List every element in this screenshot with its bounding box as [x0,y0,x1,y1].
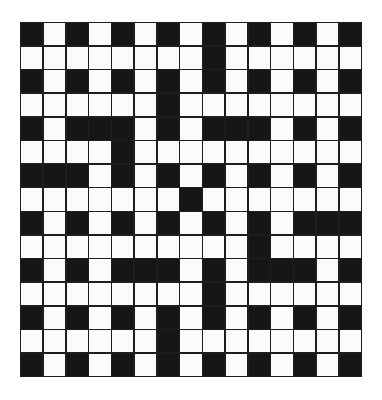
crossword-open-cell[interactable] [317,307,338,329]
crossword-open-cell[interactable] [21,236,42,258]
crossword-open-cell[interactable] [180,212,201,234]
crossword-open-cell[interactable] [180,118,201,140]
crossword-open-cell[interactable] [89,70,110,92]
crossword-open-cell[interactable] [135,94,156,116]
crossword-open-cell[interactable] [317,283,338,305]
crossword-open-cell[interactable] [203,141,224,163]
crossword-open-cell[interactable] [44,307,65,329]
crossword-open-cell[interactable] [180,23,201,45]
crossword-open-cell[interactable] [44,236,65,258]
crossword-open-cell[interactable] [294,236,315,258]
crossword-open-cell[interactable] [135,307,156,329]
crossword-open-cell[interactable] [249,283,270,305]
crossword-open-cell[interactable] [89,236,110,258]
crossword-open-cell[interactable] [271,236,292,258]
crossword-open-cell[interactable] [21,188,42,210]
crossword-open-cell[interactable] [317,354,338,376]
crossword-open-cell[interactable] [135,236,156,258]
crossword-open-cell[interactable] [44,354,65,376]
crossword-open-cell[interactable] [67,330,88,352]
crossword-open-cell[interactable] [180,94,201,116]
crossword-open-cell[interactable] [44,23,65,45]
crossword-open-cell[interactable] [158,283,179,305]
crossword-open-cell[interactable] [294,283,315,305]
crossword-open-cell[interactable] [89,188,110,210]
crossword-open-cell[interactable] [89,283,110,305]
crossword-open-cell[interactable] [226,236,247,258]
crossword-open-cell[interactable] [249,141,270,163]
crossword-open-cell[interactable] [271,188,292,210]
crossword-open-cell[interactable] [317,23,338,45]
crossword-open-cell[interactable] [135,354,156,376]
crossword-open-cell[interactable] [21,330,42,352]
crossword-open-cell[interactable] [158,188,179,210]
crossword-open-cell[interactable] [226,307,247,329]
crossword-open-cell[interactable] [135,165,156,187]
crossword-open-cell[interactable] [271,165,292,187]
crossword-open-cell[interactable] [340,236,361,258]
crossword-open-cell[interactable] [158,141,179,163]
crossword-open-cell[interactable] [271,330,292,352]
crossword-open-cell[interactable] [180,354,201,376]
crossword-open-cell[interactable] [271,47,292,69]
crossword-open-cell[interactable] [226,165,247,187]
crossword-open-cell[interactable] [112,188,133,210]
crossword-open-cell[interactable] [317,165,338,187]
crossword-open-cell[interactable] [67,236,88,258]
crossword-open-cell[interactable] [294,330,315,352]
crossword-open-cell[interactable] [294,94,315,116]
crossword-open-cell[interactable] [226,141,247,163]
crossword-open-cell[interactable] [89,165,110,187]
crossword-open-cell[interactable] [271,354,292,376]
crossword-open-cell[interactable] [340,94,361,116]
crossword-open-cell[interactable] [294,141,315,163]
crossword-open-cell[interactable] [249,188,270,210]
crossword-open-cell[interactable] [44,70,65,92]
crossword-open-cell[interactable] [271,23,292,45]
crossword-open-cell[interactable] [249,94,270,116]
crossword-open-cell[interactable] [271,283,292,305]
crossword-open-cell[interactable] [89,23,110,45]
crossword-open-cell[interactable] [317,259,338,281]
crossword-open-cell[interactable] [89,307,110,329]
crossword-open-cell[interactable] [226,23,247,45]
crossword-open-cell[interactable] [44,259,65,281]
crossword-open-cell[interactable] [317,236,338,258]
crossword-open-cell[interactable] [89,354,110,376]
crossword-open-cell[interactable] [44,330,65,352]
crossword-open-cell[interactable] [317,118,338,140]
crossword-open-cell[interactable] [89,259,110,281]
crossword-open-cell[interactable] [67,94,88,116]
crossword-open-cell[interactable] [226,47,247,69]
crossword-open-cell[interactable] [67,47,88,69]
crossword-open-cell[interactable] [135,70,156,92]
crossword-open-cell[interactable] [135,188,156,210]
crossword-open-cell[interactable] [226,330,247,352]
crossword-open-cell[interactable] [180,141,201,163]
crossword-open-cell[interactable] [180,70,201,92]
crossword-open-cell[interactable] [203,94,224,116]
crossword-open-cell[interactable] [340,141,361,163]
crossword-open-cell[interactable] [135,141,156,163]
crossword-open-cell[interactable] [89,141,110,163]
crossword-open-cell[interactable] [44,47,65,69]
crossword-open-cell[interactable] [340,188,361,210]
crossword-open-cell[interactable] [180,236,201,258]
crossword-open-cell[interactable] [44,141,65,163]
crossword-open-cell[interactable] [158,236,179,258]
crossword-open-cell[interactable] [226,283,247,305]
crossword-open-cell[interactable] [203,188,224,210]
crossword-open-cell[interactable] [89,330,110,352]
crossword-open-cell[interactable] [89,47,110,69]
crossword-open-cell[interactable] [135,283,156,305]
crossword-open-cell[interactable] [249,47,270,69]
crossword-open-cell[interactable] [226,188,247,210]
crossword-open-cell[interactable] [226,212,247,234]
crossword-open-cell[interactable] [271,118,292,140]
crossword-open-cell[interactable] [340,330,361,352]
crossword-open-cell[interactable] [180,330,201,352]
crossword-open-cell[interactable] [271,141,292,163]
crossword-open-cell[interactable] [44,118,65,140]
crossword-open-cell[interactable] [317,70,338,92]
crossword-open-cell[interactable] [294,188,315,210]
